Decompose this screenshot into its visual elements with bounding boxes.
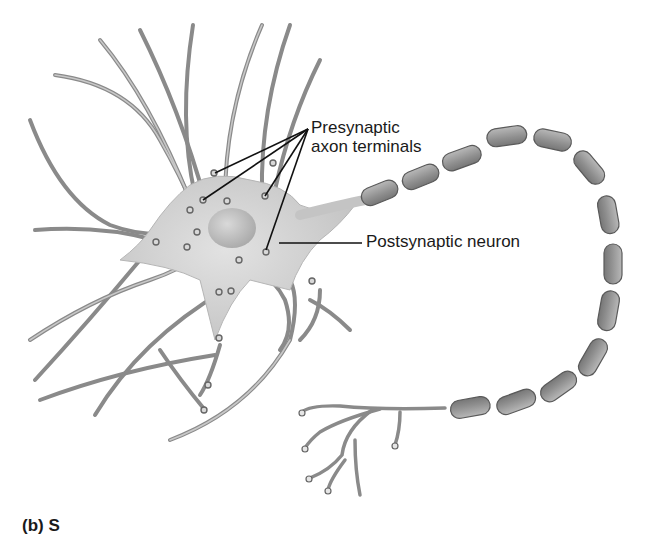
- presynaptic-label-line1: Presynaptic: [311, 118, 422, 137]
- postsynaptic-label: Postsynaptic neuron: [366, 232, 520, 251]
- axon-terminal-branches: [302, 406, 445, 495]
- presynaptic-label-line2: axon terminals: [311, 137, 422, 156]
- nucleus: [208, 208, 256, 248]
- figure-caption: (b) S: [22, 516, 60, 536]
- presynaptic-label: Presynaptic axon terminals: [311, 118, 422, 156]
- myelin-sheath: [359, 125, 622, 420]
